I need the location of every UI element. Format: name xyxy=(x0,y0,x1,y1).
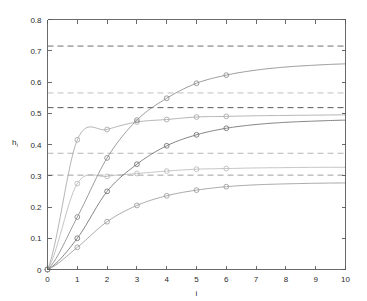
axis-box xyxy=(48,20,346,270)
y-tick-label: 0.3 xyxy=(30,172,42,181)
y-tick-label: 0.8 xyxy=(30,16,42,25)
plot-canvas: 00.10.20.30.40.50.60.70.8012345678910 ih… xyxy=(0,0,367,301)
y-tick-label: 0.6 xyxy=(30,78,42,87)
y-tick-label: 0.2 xyxy=(30,203,42,212)
x-tick-label: 7 xyxy=(254,275,259,284)
x-tick-label: 4 xyxy=(164,275,169,284)
x-axis-title: i xyxy=(196,289,198,298)
x-tick-label: 3 xyxy=(135,275,140,284)
reference-lines-group xyxy=(48,46,346,175)
tick-labels-group: 00.10.20.30.40.50.60.70.8012345678910 xyxy=(30,16,350,284)
curve-1-line xyxy=(48,167,346,269)
y-axis-title-text: hi xyxy=(12,138,18,148)
curve-5-line xyxy=(48,183,346,270)
x-tick-label: 5 xyxy=(194,275,199,284)
y-tick-label: 0.5 xyxy=(30,109,42,118)
x-tick-label: 10 xyxy=(341,275,350,284)
y-tick-label: 0 xyxy=(37,266,42,275)
x-tick-label: 8 xyxy=(284,275,289,284)
x-tick-label: 0 xyxy=(45,275,50,284)
y-axis-title: hi xyxy=(12,138,18,148)
y-tick-label: 0.1 xyxy=(30,234,42,243)
data-markers-group xyxy=(45,73,229,272)
curve-4-line xyxy=(48,120,346,269)
x-tick-label: 1 xyxy=(75,275,80,284)
y-tick-label: 0.4 xyxy=(30,141,42,150)
axes-group xyxy=(48,20,346,270)
x-tick-label: 2 xyxy=(105,275,110,284)
y-tick-label: 0.7 xyxy=(30,47,42,56)
y-axis-title-subscript: i xyxy=(17,142,18,148)
x-tick-label: 9 xyxy=(313,275,318,284)
chart-figure: 00.10.20.30.40.50.60.70.8012345678910 ih… xyxy=(0,0,367,301)
x-tick-label: 6 xyxy=(224,275,229,284)
